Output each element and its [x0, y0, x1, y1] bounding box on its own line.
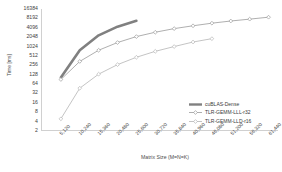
series-marker	[116, 63, 120, 67]
chart-container: Time [ms] 163848192409620481024512256128…	[0, 0, 282, 172]
y-axis-tick-label: 16	[8, 100, 38, 105]
legend-label: cuBLAS-Dense	[205, 101, 239, 108]
y-axis-tick-label: 8192	[8, 15, 38, 20]
series-marker	[191, 40, 195, 44]
x-axis-title: Matrix Size (M=N=K)	[100, 154, 230, 160]
y-axis-tick-label: 4	[8, 119, 38, 124]
series-marker	[116, 41, 120, 45]
legend-item[interactable]: TLR-GEMM-LLD-r16	[189, 117, 281, 125]
legend-swatch-icon	[189, 101, 202, 108]
legend-label: TLR-GEMM-LLL-r32	[205, 109, 251, 116]
series-marker	[153, 49, 157, 53]
legend-item[interactable]: cuBLAS-Dense	[189, 100, 281, 108]
y-axis-tick-label: 32	[8, 90, 38, 95]
y-axis-tick-label: 64	[8, 81, 38, 86]
series-line	[61, 17, 269, 79]
series-marker	[97, 48, 101, 52]
y-axis-tick-label: 16384	[8, 6, 38, 11]
series-marker	[135, 55, 139, 59]
y-axis-tick-labels: 163848192409620481024512256128643216842	[8, 8, 38, 132]
series-marker	[229, 19, 233, 23]
chart-legend: cuBLAS-DenseTLR-GEMM-LLL-r32TLR-GEMM-LLD…	[189, 100, 281, 126]
legend-swatch-icon	[189, 109, 202, 116]
y-axis-tick-label: 256	[8, 62, 38, 67]
y-axis-tick-label: 512	[8, 53, 38, 58]
y-axis-tick-label: 2	[8, 128, 38, 133]
series-marker	[210, 21, 214, 25]
legend-swatch-icon	[189, 118, 202, 125]
series-marker	[210, 37, 214, 41]
y-axis-tick-label: 128	[8, 72, 38, 77]
y-axis-tick-label: 8	[8, 109, 38, 114]
y-axis-tick-label: 4096	[8, 25, 38, 30]
series-marker	[172, 27, 176, 31]
series-marker	[248, 17, 252, 21]
legend-item[interactable]: TLR-GEMM-LLL-r32	[189, 109, 281, 117]
series-marker	[191, 24, 195, 28]
series-marker	[135, 35, 139, 39]
y-axis-tick-label: 1024	[8, 44, 38, 49]
series-marker	[172, 45, 176, 49]
series-marker	[267, 15, 271, 19]
y-axis-tick-label: 2048	[8, 34, 38, 39]
legend-label: TLR-GEMM-LLD-r16	[205, 118, 251, 125]
series-marker	[153, 30, 157, 34]
series-marker	[59, 117, 63, 121]
